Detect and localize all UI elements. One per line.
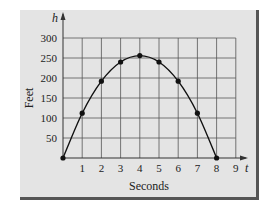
x-tick-label: 9 xyxy=(233,162,239,174)
y-tick-label: 100 xyxy=(41,112,58,124)
x-tick-label: 1 xyxy=(79,162,85,174)
x-tick-label: 6 xyxy=(175,162,181,174)
y-axis-label: Feet xyxy=(22,87,36,108)
chart: 12345678950100150200250300 h t Seconds F… xyxy=(0,0,275,211)
x-tick-label: 5 xyxy=(156,162,162,174)
y-tick-label: 300 xyxy=(41,32,58,44)
x-tick-label: 4 xyxy=(137,162,143,174)
x-tick-label: 7 xyxy=(195,162,201,174)
data-point xyxy=(60,155,65,160)
y-tick-label: 150 xyxy=(41,92,58,104)
data-point xyxy=(195,111,200,116)
data-point xyxy=(214,155,219,160)
data-point xyxy=(80,111,85,116)
x-axis-arrow-icon xyxy=(240,156,248,161)
data-point xyxy=(137,53,142,58)
x-tick-label: 3 xyxy=(118,162,124,174)
y-axis-variable: h xyxy=(52,11,58,25)
data-point xyxy=(99,79,104,84)
y-axis-arrow-icon xyxy=(61,12,66,20)
data-point xyxy=(176,79,181,84)
y-tick-label: 50 xyxy=(46,132,58,144)
x-axis-label: Seconds xyxy=(129,179,169,193)
data-point xyxy=(118,59,123,64)
y-tick-label: 250 xyxy=(41,52,58,64)
y-tick-label: 200 xyxy=(41,72,58,84)
x-axis-variable: t xyxy=(245,161,249,175)
data-point xyxy=(156,59,161,64)
x-tick-label: 2 xyxy=(99,162,105,174)
x-tick-label: 8 xyxy=(214,162,220,174)
